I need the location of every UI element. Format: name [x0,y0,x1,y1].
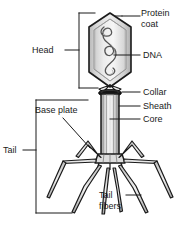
label-base-plate: Base plate [35,105,78,115]
tail-fiber-left-inner [72,165,102,213]
tail-fiber-left-arm [63,159,96,164]
label-protein-coat-line2: coat [141,19,158,29]
label-protein-coat-line1: Protein [141,8,170,18]
tail-sheath-group [101,94,119,157]
label-tail-fibers-line1: Tail [99,190,113,200]
label-tail-fibers-line2: fibers [99,201,121,211]
label-dna: DNA [143,50,162,60]
tail-fiber-right-inner [119,165,149,213]
bacteriophage-diagram: Protein coat DNA Head Collar Sheath Core… [0,0,188,228]
tail-fiber-right-arm [124,159,157,164]
tail-fiber-right-outer [154,161,173,198]
label-core: Core [143,114,163,124]
label-head: Head [32,45,54,55]
head-capsid-group [89,13,131,87]
label-tail: Tail [3,145,17,155]
leader-base-plate [63,118,90,148]
tail-fiber-left-outer [47,161,66,198]
label-collar: Collar [143,87,167,97]
label-sheath: Sheath [143,101,172,111]
